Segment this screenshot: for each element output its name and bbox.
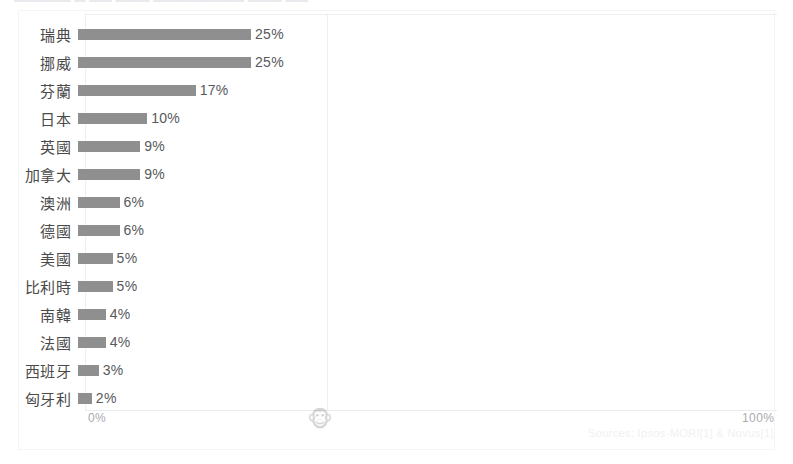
bar — [78, 281, 113, 292]
bar — [78, 309, 106, 320]
chart-page: ▬▬▬▬▬ ▬ ▬▬ ▬▬▬ ▬▬▬▬▬▬▬▬ ▬▬▬ ▬▬ 瑞典25%挪威25… — [0, 0, 793, 464]
bar-row: 西班牙3% — [0, 356, 793, 384]
bar-category-label: 南韓 — [0, 304, 78, 325]
bar-track: 9% — [78, 160, 793, 188]
bar-track: 10% — [78, 104, 793, 132]
bar-track: 6% — [78, 188, 793, 216]
source-credit: Sources: Ipsos-MORI[1] & Novus[1] — [588, 427, 774, 439]
bar-row: 瑞典25% — [0, 20, 793, 48]
x-axis-tick-max: 100% — [742, 411, 774, 425]
bar-track: 5% — [78, 272, 793, 300]
bar-row: 澳洲6% — [0, 188, 793, 216]
bar — [78, 29, 251, 40]
bar-category-label: 比利時 — [0, 276, 78, 297]
bar-row: 日本10% — [0, 104, 793, 132]
bar-track: 3% — [78, 356, 793, 384]
bar — [78, 57, 251, 68]
bar-value-label: 3% — [103, 362, 124, 378]
bar-category-label: 匈牙利 — [0, 388, 78, 409]
bar-track: 17% — [78, 76, 793, 104]
bar-row: 芬蘭17% — [0, 76, 793, 104]
bar-category-label: 芬蘭 — [0, 80, 78, 101]
bar-row: 匈牙利2% — [0, 384, 793, 412]
bar — [78, 337, 106, 348]
bar-rows: 瑞典25%挪威25%芬蘭17%日本10%英國9%加拿大9%澳洲6%德國6%美國5… — [0, 20, 793, 412]
bar-value-label: 5% — [117, 278, 138, 294]
bar — [78, 393, 92, 404]
bar-value-label: 9% — [144, 138, 165, 154]
bar-category-label: 挪威 — [0, 52, 78, 73]
bar-value-label: 6% — [124, 222, 145, 238]
bar-row: 英國9% — [0, 132, 793, 160]
bar-category-label: 日本 — [0, 108, 78, 129]
bar-value-label: 10% — [151, 110, 180, 126]
bar — [78, 85, 196, 96]
bar-track: 9% — [78, 132, 793, 160]
bar-category-label: 美國 — [0, 248, 78, 269]
bar-value-label: 4% — [110, 334, 131, 350]
bar-value-label: 25% — [255, 54, 284, 70]
bar-track: 4% — [78, 328, 793, 356]
bar — [78, 197, 120, 208]
bar-row: 德國6% — [0, 216, 793, 244]
bar-value-label: 2% — [96, 390, 117, 406]
bar — [78, 253, 113, 264]
x-axis-tick-min: 0% — [88, 411, 106, 425]
bar-value-label: 5% — [117, 250, 138, 266]
bar-value-label: 9% — [144, 166, 165, 182]
bar — [78, 113, 147, 124]
monkey-face-icon: 🐵 — [305, 407, 335, 433]
bar-track: 6% — [78, 216, 793, 244]
bar-track: 2% — [78, 384, 793, 412]
bar-row: 南韓4% — [0, 300, 793, 328]
horizontal-bar-chart: 瑞典25%挪威25%芬蘭17%日本10%英國9%加拿大9%澳洲6%德國6%美國5… — [0, 0, 793, 464]
bar-value-label: 25% — [255, 26, 284, 42]
bar-category-label: 加拿大 — [0, 164, 78, 185]
bar-category-label: 澳洲 — [0, 192, 78, 213]
bar-category-label: 法國 — [0, 332, 78, 353]
bar — [78, 141, 140, 152]
plot-top-border — [85, 14, 777, 15]
bar-row: 法國4% — [0, 328, 793, 356]
bar-category-label: 德國 — [0, 220, 78, 241]
bar-row: 加拿大9% — [0, 160, 793, 188]
bar-track: 4% — [78, 300, 793, 328]
bar-value-label: 4% — [110, 306, 131, 322]
bar-value-label: 17% — [200, 82, 229, 98]
bar-row: 比利時5% — [0, 272, 793, 300]
bar-category-label: 瑞典 — [0, 24, 78, 45]
bar-row: 美國5% — [0, 244, 793, 272]
bar — [78, 225, 120, 236]
bar — [78, 169, 140, 180]
bar-row: 挪威25% — [0, 48, 793, 76]
bar — [78, 365, 99, 376]
bar-value-label: 6% — [124, 194, 145, 210]
bar-category-label: 西班牙 — [0, 360, 78, 381]
bar-track: 25% — [78, 48, 793, 76]
bar-category-label: 英國 — [0, 136, 78, 157]
bar-track: 5% — [78, 244, 793, 272]
bar-track: 25% — [78, 20, 793, 48]
